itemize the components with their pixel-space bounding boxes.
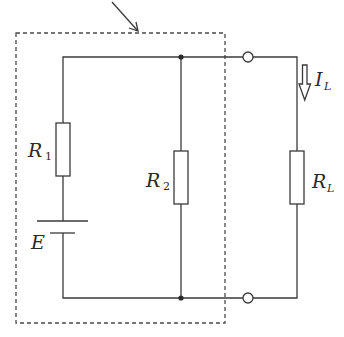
label-e: E [30, 231, 45, 253]
resistor-rl [290, 151, 304, 204]
pointer-arrow-icon [112, 2, 138, 31]
label-r2-sub: 2 [163, 180, 170, 193]
circuit-diagram: R 1 E R 2 R L I L [0, 0, 344, 337]
junction-bottom [178, 295, 183, 300]
terminal-bottom [243, 293, 253, 303]
equivalent-source-box [16, 33, 225, 323]
label-il-sub: L [323, 80, 331, 93]
resistor-r1 [56, 123, 70, 176]
label-il: I [314, 68, 323, 90]
label-r2: R [145, 169, 160, 191]
label-r1: R [27, 139, 42, 161]
label-rl-sub: L [326, 182, 334, 195]
current-arrow-icon [299, 65, 311, 100]
resistor-r2 [174, 151, 188, 204]
terminal-top [243, 52, 253, 62]
label-r1-sub: 1 [45, 150, 52, 163]
junction-top [178, 54, 183, 59]
label-rl: R [311, 170, 326, 192]
